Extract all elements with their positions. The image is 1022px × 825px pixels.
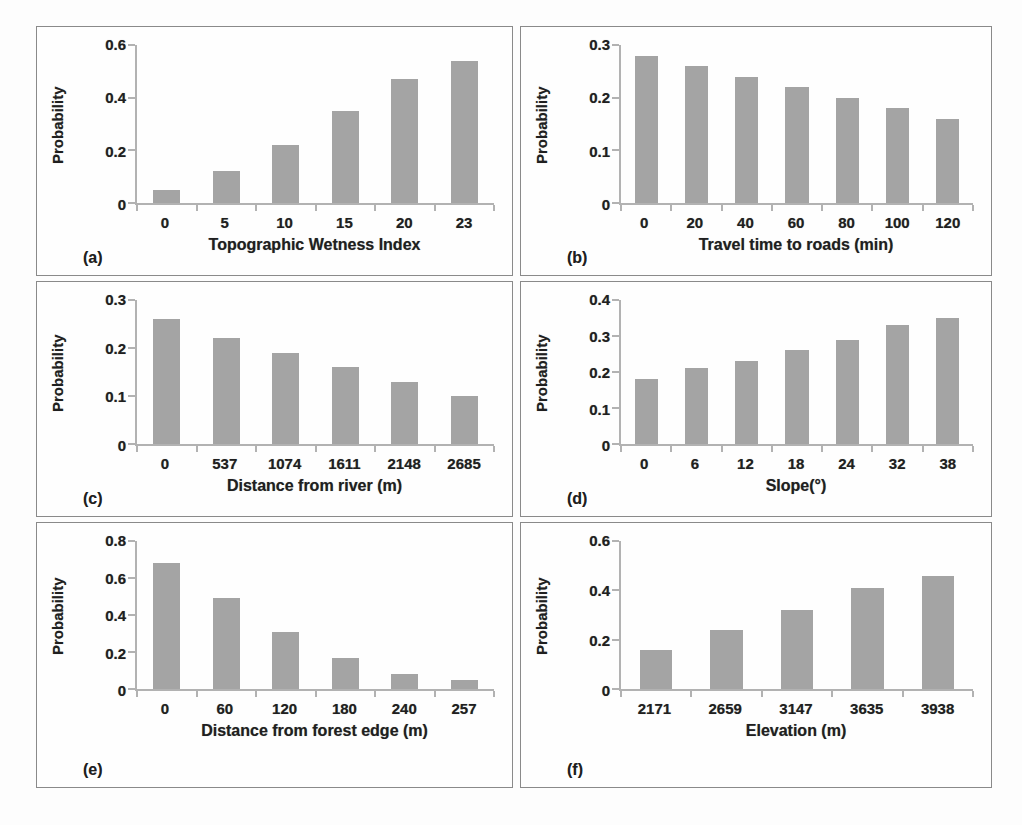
bar xyxy=(153,563,180,689)
bar-slot xyxy=(256,45,316,203)
x-tick-mark xyxy=(493,205,495,211)
y-tick-label: 0 xyxy=(118,437,126,455)
y-tick-mark xyxy=(128,577,135,579)
x-tick-label: 1074 xyxy=(255,455,315,472)
bar xyxy=(836,98,859,203)
y-tick-mark xyxy=(128,97,135,99)
bar xyxy=(332,367,359,444)
plot-area xyxy=(135,45,494,205)
bar-slot xyxy=(316,45,376,203)
x-tick-mark xyxy=(434,446,436,452)
x-tick-mark xyxy=(434,205,436,211)
bar-slot xyxy=(137,300,197,444)
bar xyxy=(735,77,758,203)
x-tick-mark xyxy=(196,205,198,211)
y-tick-label: 0.3 xyxy=(105,291,126,309)
bar-slot xyxy=(762,541,832,689)
x-tick-mark xyxy=(922,205,924,211)
x-axis-title: Travel time to roads (min) xyxy=(619,231,973,254)
x-tick-label: 3635 xyxy=(831,700,902,717)
chart-a: Probability 00.20.40.6 0510152023 Topogr… xyxy=(49,45,512,254)
x-axis-title: Distance from river (m) xyxy=(135,472,494,495)
x-tick-mark xyxy=(493,691,495,697)
bar-slot xyxy=(903,541,973,689)
bar-slot xyxy=(375,45,435,203)
plot-area xyxy=(619,45,973,205)
bar-slot xyxy=(671,45,721,203)
y-tick-label: 0.2 xyxy=(105,143,126,161)
bar xyxy=(785,87,808,203)
x-tick-mark xyxy=(620,205,622,211)
x-tick-mark xyxy=(871,205,873,211)
x-tick-mark xyxy=(821,446,823,452)
bars xyxy=(621,45,973,203)
x-tick-label: 2148 xyxy=(374,455,434,472)
bar xyxy=(451,680,478,689)
y-tick-mark xyxy=(612,407,619,409)
bar-slot xyxy=(137,45,197,203)
x-tick-mark xyxy=(972,446,974,452)
x-tick-mark xyxy=(315,691,317,697)
x-axis-title: Distance from forest edge (m) xyxy=(135,717,494,766)
bar xyxy=(213,338,240,444)
x-tick-label: 23 xyxy=(434,214,494,231)
x-tick-label: 15 xyxy=(314,214,374,231)
x-tick-label: 60 xyxy=(771,214,822,231)
bar-slot xyxy=(772,45,822,203)
y-tick-mark xyxy=(128,44,135,46)
bar-slot xyxy=(375,300,435,444)
y-tick-mark xyxy=(612,443,619,445)
x-tick-mark xyxy=(670,205,672,211)
bar xyxy=(332,111,359,203)
bar-slot xyxy=(197,45,257,203)
x-tick-label: 10 xyxy=(255,214,315,231)
x-tick-label: 3938 xyxy=(902,700,973,717)
x-tick-label: 80 xyxy=(821,214,872,231)
y-axis-title: Probability xyxy=(533,541,559,691)
x-tick-label: 20 xyxy=(670,214,721,231)
bars xyxy=(137,45,494,203)
y-tick-mark xyxy=(128,614,135,616)
bar-slot xyxy=(435,541,495,689)
x-tick-mark xyxy=(493,446,495,452)
y-axis-ticks: 00.10.20.3 xyxy=(559,45,619,205)
y-tick-mark xyxy=(128,149,135,151)
bar-slot xyxy=(256,300,316,444)
bar-slot xyxy=(822,45,872,203)
bar-slot xyxy=(375,541,435,689)
bar xyxy=(451,61,478,203)
y-tick-mark xyxy=(128,202,135,204)
y-tick-label: 0.6 xyxy=(589,532,610,550)
bar-slot xyxy=(256,541,316,689)
bar-slot xyxy=(435,45,495,203)
x-tick-label: 18 xyxy=(771,455,822,472)
probability-bar-chart-figure: Probability 00.20.40.6 0510152023 Topogr… xyxy=(0,0,1022,825)
bar-slot xyxy=(621,300,671,444)
bar-slot xyxy=(671,300,721,444)
x-tick-mark xyxy=(871,446,873,452)
y-tick-mark xyxy=(128,651,135,653)
y-axis-ticks: 00.20.40.6 xyxy=(559,541,619,691)
x-tick-label: 0 xyxy=(135,455,195,472)
x-tick-label: 24 xyxy=(821,455,872,472)
x-tick-mark xyxy=(255,205,257,211)
y-tick-label: 0 xyxy=(118,682,126,700)
bar xyxy=(936,119,959,203)
x-tick-mark xyxy=(196,446,198,452)
y-axis-title: Probability xyxy=(49,300,75,446)
x-tick-mark xyxy=(434,691,436,697)
panel-c: Probability 00.10.20.3 05371074161121482… xyxy=(36,281,513,517)
x-tick-mark xyxy=(315,205,317,211)
bar xyxy=(886,325,909,444)
x-tick-label: 38 xyxy=(922,455,973,472)
y-axis-ticks: 00.10.20.30.4 xyxy=(559,300,619,446)
y-tick-label: 0.4 xyxy=(589,582,610,600)
y-tick-label: 0.2 xyxy=(589,89,610,107)
x-tick-mark xyxy=(771,446,773,452)
y-tick-mark xyxy=(128,299,135,301)
bar-slot xyxy=(872,300,922,444)
x-axis-title: Slope(°) xyxy=(619,472,973,495)
panel-letter: (d) xyxy=(567,490,587,508)
x-tick-mark xyxy=(771,205,773,211)
bar xyxy=(391,674,418,689)
